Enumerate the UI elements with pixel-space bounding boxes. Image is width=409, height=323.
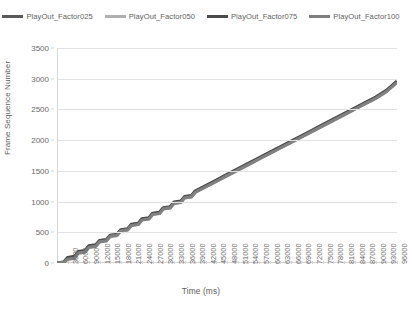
y-axis-tick-label: 1500 xyxy=(31,166,49,175)
x-axis-tickmark xyxy=(312,261,313,264)
x-axis-tickmark xyxy=(110,261,111,264)
legend-item-label: PlayOut_Factor025 xyxy=(26,12,92,21)
x-axis-tickmark xyxy=(174,261,175,264)
legend-item-label: PlayOut_Factor050 xyxy=(129,12,195,21)
gridline xyxy=(57,171,397,172)
legend-item-playout_factor050[interactable]: PlayOut_Factor050 xyxy=(105,12,195,21)
legend-item-playout_factor025[interactable]: PlayOut_Factor025 xyxy=(2,12,92,21)
legend-swatch-icon xyxy=(2,15,23,18)
gridline xyxy=(57,202,397,203)
x-axis-tickmark xyxy=(163,261,164,264)
y-axis-tickmark xyxy=(51,48,54,49)
x-axis-tickmark xyxy=(78,261,79,264)
y-axis-tickmark xyxy=(51,109,54,110)
x-axis-tickmark xyxy=(195,261,196,264)
x-axis-tick-label: 96000 xyxy=(400,243,409,264)
x-axis-tickmark xyxy=(153,261,154,264)
plot-area xyxy=(57,48,397,263)
chart-legend: PlayOut_Factor025PlayOut_Factor050PlayOu… xyxy=(0,12,402,21)
y-axis-tick-label: 2000 xyxy=(31,136,49,145)
y-axis-tick-label: 3500 xyxy=(31,44,49,53)
legend-item-label: PlayOut_Factor075 xyxy=(231,12,297,21)
x-axis-tickmark xyxy=(270,261,271,264)
y-axis-tick-label: 2500 xyxy=(31,105,49,114)
x-axis-tickmark xyxy=(323,261,324,264)
legend-swatch-icon xyxy=(309,15,330,18)
x-axis-tickmark xyxy=(216,261,217,264)
x-axis-tickmark xyxy=(280,261,281,264)
x-axis-tickmark xyxy=(291,261,292,264)
y-axis-tick-label: 500 xyxy=(36,228,49,237)
x-axis-tickmark xyxy=(259,261,260,264)
x-axis-tickmark xyxy=(131,261,132,264)
legend-item-playout_factor075[interactable]: PlayOut_Factor075 xyxy=(207,12,297,21)
series-lines xyxy=(57,48,397,263)
x-axis-tickmark xyxy=(344,261,345,264)
x-axis-tickmark xyxy=(333,261,334,264)
x-axis-tickmark xyxy=(238,261,239,264)
x-axis-tickmark xyxy=(185,261,186,264)
x-axis-tickmark xyxy=(142,261,143,264)
y-axis-tickmark xyxy=(51,170,54,171)
x-axis-title: Time (ms) xyxy=(0,286,402,296)
gridline xyxy=(57,232,397,233)
gridline xyxy=(57,140,397,141)
y-axis-title: Frame Sequence Number xyxy=(3,61,12,155)
gridline xyxy=(57,48,397,49)
legend-item-playout_factor100[interactable]: PlayOut_Factor100 xyxy=(309,12,399,21)
y-axis-tickmark xyxy=(51,232,54,233)
x-axis-tickmark xyxy=(376,261,377,264)
x-axis-tickmark xyxy=(100,261,101,264)
x-axis-tickmark xyxy=(397,261,398,264)
x-axis-tickmark xyxy=(227,261,228,264)
x-axis-tickmark xyxy=(355,261,356,264)
x-axis-tickmark xyxy=(89,261,90,264)
legend-swatch-icon xyxy=(105,15,126,18)
legend-swatch-icon xyxy=(207,15,228,18)
legend-item-label: PlayOut_Factor100 xyxy=(333,12,399,21)
gridline xyxy=(57,109,397,110)
y-axis-tick-label: 3000 xyxy=(31,74,49,83)
x-axis-tickmark xyxy=(206,261,207,264)
y-axis-tickmark xyxy=(51,78,54,79)
y-axis-tickmark xyxy=(51,140,54,141)
x-axis-tickmark xyxy=(248,261,249,264)
y-axis-tick-label: 0 xyxy=(45,259,49,268)
y-axis-tick-label: 1000 xyxy=(31,197,49,206)
x-axis-tickmark xyxy=(121,261,122,264)
x-axis-tickmark xyxy=(365,261,366,264)
y-axis-tickmark xyxy=(51,263,54,264)
x-axis-tickmark xyxy=(386,261,387,264)
x-axis-tickmark xyxy=(68,261,69,264)
gridline xyxy=(57,79,397,80)
x-axis-tickmark xyxy=(301,261,302,264)
y-axis-tickmark xyxy=(51,201,54,202)
